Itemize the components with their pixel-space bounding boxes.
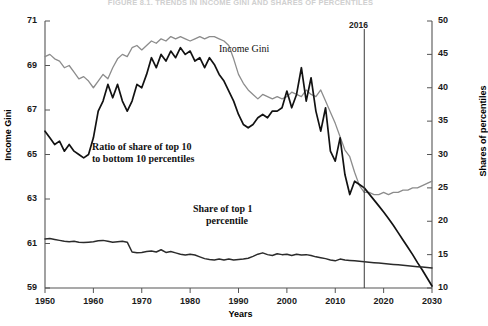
y-tick-label: 65: [11, 149, 37, 159]
series-line: [45, 48, 432, 286]
x-tick-label: 2030: [412, 296, 452, 306]
x-tick-label: 1960: [73, 296, 113, 306]
y-tick-label: 61: [11, 238, 37, 248]
marker-year-label: 2016: [349, 20, 368, 30]
x-tick-label: 1970: [122, 296, 162, 306]
y2-tick-label: 30: [438, 149, 464, 159]
x-tick-label: 1980: [170, 296, 210, 306]
y2-tick-label: 15: [438, 249, 464, 259]
series-label-income-gini: Income Gini: [219, 43, 269, 55]
series-label-ratio-line1: Ratio of share of top 10: [92, 141, 192, 153]
x-tick-label: 2020: [364, 296, 404, 306]
series-label-share-line1: Share of top 1: [193, 203, 253, 215]
y2-axis-title: Shares of percentiles: [478, 83, 488, 179]
y2-tick-label: 50: [438, 15, 464, 25]
y2-tick-label: 25: [438, 182, 464, 192]
x-tick-label: 1950: [25, 296, 65, 306]
series-label-share-line2: percentile: [206, 215, 248, 227]
y-tick-label: 67: [11, 104, 37, 114]
series-line: [45, 239, 432, 268]
series-label-ratio-line2: to bottom 10 percentiles: [92, 153, 194, 165]
y2-tick-label: 45: [438, 48, 464, 58]
x-tick-label: 2000: [267, 296, 307, 306]
x-tick-label: 1990: [219, 296, 259, 306]
y-tick-label: 71: [11, 15, 37, 25]
y2-tick-label: 35: [438, 115, 464, 125]
y-axis-title: Income Gini: [3, 100, 13, 170]
y2-tick-label: 10: [438, 282, 464, 292]
y2-tick-label: 20: [438, 215, 464, 225]
y-tick-label: 69: [11, 60, 37, 70]
x-axis-title: Years: [0, 309, 481, 319]
y-tick-label: 63: [11, 193, 37, 203]
y-tick-label: 59: [11, 282, 37, 292]
x-tick-label: 2010: [315, 296, 355, 306]
y2-tick-label: 40: [438, 82, 464, 92]
